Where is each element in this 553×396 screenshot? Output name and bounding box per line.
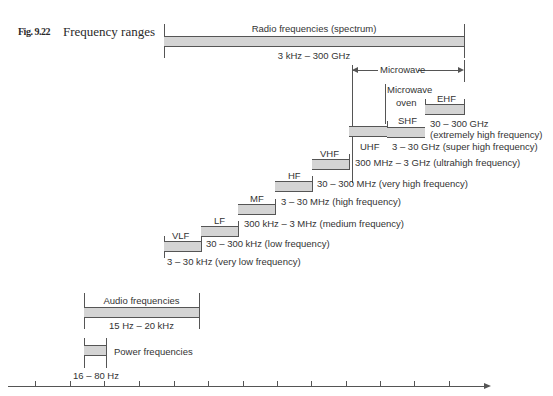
- hf-bar: [275, 181, 312, 192]
- power-range: 16 – 80 Hz: [73, 370, 119, 381]
- arrow-left-icon: [352, 67, 358, 73]
- ehf-bar: [425, 104, 464, 115]
- lf-right-tick: [238, 221, 239, 237]
- ehf-range-line1: 30 – 300 GHz: [430, 118, 489, 129]
- axis-tick: [414, 381, 415, 386]
- vhf-range: 30 – 300 MHz (very high frequency): [317, 178, 468, 189]
- figure-title: Frequency ranges: [63, 24, 155, 40]
- microwave-label: Microwave: [380, 64, 425, 75]
- radio-right-tick: [464, 24, 465, 58]
- shf-range: 3 – 30 GHz (super high frequency): [392, 141, 538, 152]
- audio-right-tick: [199, 293, 200, 329]
- axis-tick: [346, 381, 347, 386]
- mf-bar: [238, 204, 275, 215]
- radio-spectrum-bar: [164, 36, 464, 47]
- arrow-right-icon: [458, 67, 464, 73]
- lf-bar: [201, 226, 238, 237]
- axis-line: [8, 386, 486, 387]
- axis-tick: [243, 381, 244, 386]
- vhf-right-tick: [349, 154, 350, 170]
- figure-number: Fig. 9.22: [18, 26, 50, 37]
- ehf-range-line2: (extremely high frequency): [430, 129, 542, 140]
- microwave-oven-label-line1: Microwave: [387, 84, 432, 95]
- audio-bar: [84, 307, 199, 318]
- vlf-abbr: VLF: [172, 230, 189, 241]
- axis-tick: [35, 381, 36, 386]
- axis-tick: [139, 381, 140, 386]
- axis-tick: [449, 381, 450, 386]
- axis-tick: [380, 381, 381, 386]
- mf-right-tick: [275, 199, 276, 215]
- microwave-oven-line: [385, 84, 386, 124]
- axis-tick: [70, 381, 71, 386]
- vhf-bar: [312, 159, 349, 170]
- hf-abbr: HF: [288, 170, 301, 181]
- audio-range: 15 Hz – 20 kHz: [84, 320, 199, 331]
- axis-arrow-icon: [484, 383, 491, 389]
- microwave-left-line: [352, 65, 353, 183]
- hf-right-tick: [312, 176, 313, 192]
- vhf-abbr: VHF: [320, 148, 339, 159]
- microwave-oven-label-line2: oven: [396, 97, 417, 108]
- axis-tick: [311, 381, 312, 386]
- uhf-abbr: UHF: [360, 141, 380, 152]
- axis-tick: [277, 381, 278, 386]
- vlf-right-tick: [201, 236, 202, 252]
- hf-range: 3 – 30 MHz (high frequency): [281, 196, 401, 207]
- mf-range: 300 kHz – 3 MHz (medium frequency): [244, 218, 404, 229]
- lf-range: 30 – 300 kHz (low frequency): [206, 238, 330, 249]
- vlf-bar: [164, 241, 201, 252]
- radio-range: 3 kHz – 300 GHz: [164, 50, 464, 61]
- shf-abbr: SHF: [398, 115, 417, 126]
- axis-tick: [104, 381, 105, 386]
- uhf-range: 300 MHz – 3 GHz (ultrahigh frequency): [355, 157, 520, 168]
- axis-tick: [174, 381, 175, 386]
- audio-label: Audio frequencies: [84, 295, 199, 306]
- lf-abbr: LF: [214, 215, 225, 226]
- ehf-abbr: EHF: [437, 93, 456, 104]
- uhf-bar: [349, 126, 387, 137]
- radio-label: Radio frequencies (spectrum): [164, 23, 464, 34]
- ehf-right-tick: [464, 99, 465, 115]
- microwave-right-line: [464, 60, 465, 82]
- power-right-tick: [106, 338, 107, 368]
- shf-bar: [387, 127, 425, 138]
- power-label: Power frequencies: [114, 346, 193, 357]
- vlf-range: 3 – 30 kHz (very low frequency): [167, 256, 301, 267]
- axis-tick: [208, 381, 209, 386]
- power-bar: [84, 345, 106, 356]
- mf-abbr: MF: [250, 193, 264, 204]
